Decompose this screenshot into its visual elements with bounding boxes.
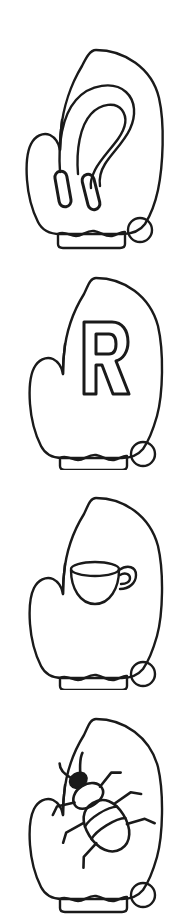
mitten-drawing-3 bbox=[0, 490, 183, 690]
mitten-body-outline-4 bbox=[30, 719, 162, 899]
beetle-leg-right-1-4 bbox=[97, 768, 121, 786]
beetle-antenna-right-4 bbox=[72, 753, 90, 772]
pompom-circle-4 bbox=[131, 883, 155, 907]
letter-r-outline-2 bbox=[84, 322, 129, 394]
beetle-leg-right-3-4 bbox=[127, 811, 155, 836]
mitten-thumb-crease-2 bbox=[63, 344, 65, 374]
mitten-body-outline-3 bbox=[30, 498, 162, 678]
beetle-segment-2-4 bbox=[90, 815, 126, 839]
mitten-thumb-crease-3 bbox=[63, 564, 65, 594]
coloring-sheet: Mitten with bobby pin bbox=[0, 0, 183, 920]
teacup-handle-inner-3 bbox=[120, 574, 130, 584]
panel-mitten-with-beetle[interactable]: Mitten with beetle bbox=[0, 705, 183, 915]
bobby-pin-tip-left-1 bbox=[54, 170, 72, 208]
pompom-circle-2 bbox=[131, 442, 155, 466]
mitten-drawing-1 bbox=[0, 40, 183, 250]
mitten-drawing-4 bbox=[0, 705, 183, 920]
beetle-4 bbox=[27, 736, 161, 874]
panel-mitten-with-teacup[interactable]: Mitten with teacup bbox=[0, 490, 183, 690]
mitten-thumb-crease-4 bbox=[63, 785, 65, 815]
teacup-rim-3 bbox=[71, 562, 119, 576]
panel-mitten-with-bobby-pin[interactable]: Mitten with bobby pin bbox=[0, 40, 183, 250]
bobby-pin-outer-1 bbox=[60, 85, 135, 186]
beetle-leg-right-2-4 bbox=[115, 788, 142, 808]
teacup-handle-3 bbox=[119, 567, 136, 589]
mitten-drawing-2 bbox=[0, 270, 183, 470]
pompom-circle-3 bbox=[131, 662, 155, 686]
beetle-leg-left-2-4 bbox=[59, 823, 86, 843]
panel-mitten-with-letter-r[interactable]: Mitten with letter R bbox=[0, 270, 183, 470]
mitten-body-outline-1 bbox=[27, 50, 163, 234]
